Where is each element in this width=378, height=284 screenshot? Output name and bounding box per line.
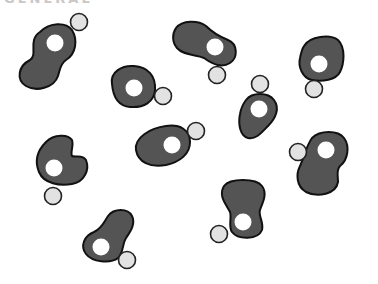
- molecule-1: [20, 14, 88, 89]
- negative-charge-icon: [207, 39, 224, 56]
- negative-charge-icon: [188, 123, 205, 140]
- molecule-body: [37, 136, 87, 185]
- positive-charge-icon: [252, 76, 269, 93]
- molecule-body: [173, 22, 236, 66]
- positive-charge-icon: [164, 137, 181, 154]
- molecule-body: [136, 126, 190, 166]
- negative-charge-icon: [155, 88, 172, 105]
- molecule-5: [300, 37, 344, 98]
- molecule-10: [83, 210, 135, 269]
- molecule-3: [173, 22, 236, 84]
- polar-molecules-diagram: [0, 0, 378, 284]
- negative-charge-icon: [71, 14, 88, 31]
- positive-charge-icon: [119, 252, 136, 269]
- positive-charge-icon: [45, 188, 62, 205]
- positive-charge-icon: [47, 35, 64, 52]
- positive-charge-icon: [290, 144, 307, 161]
- molecule-6: [136, 123, 205, 166]
- negative-charge-icon: [306, 81, 323, 98]
- negative-charge-icon: [318, 142, 335, 159]
- negative-charge-icon: [251, 101, 268, 118]
- negative-charge-icon: [211, 226, 228, 243]
- molecule-9: [211, 180, 265, 243]
- molecule-7: [37, 136, 87, 205]
- molecule-4: [239, 76, 277, 139]
- negative-charge-icon: [93, 239, 110, 256]
- molecule-8: [290, 132, 348, 195]
- molecule-2: [112, 66, 172, 107]
- negative-charge-icon: [46, 160, 63, 177]
- positive-charge-icon: [209, 67, 226, 84]
- molecule-body: [20, 24, 76, 89]
- positive-charge-icon: [235, 214, 252, 231]
- positive-charge-icon: [311, 56, 328, 73]
- molecule-body: [298, 132, 348, 195]
- positive-charge-icon: [126, 80, 143, 97]
